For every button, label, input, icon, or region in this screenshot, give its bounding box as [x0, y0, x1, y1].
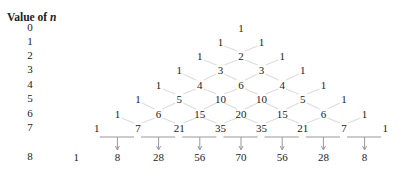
cell-r4-k1: 4 — [197, 79, 203, 91]
cell-r8-k2: 28 — [153, 151, 164, 163]
cell-r4-k4: 1 — [321, 79, 327, 91]
cell-r8-k5: 56 — [277, 151, 288, 163]
cell-r8-k6: 28 — [318, 151, 329, 163]
cell-r7-k6: 7 — [341, 122, 347, 134]
cell-r7-k4: 35 — [256, 122, 267, 134]
cell-r8-k1: 8 — [115, 151, 121, 163]
cell-r6-k2: 15 — [194, 108, 205, 120]
cell-r7-k0: 1 — [94, 122, 100, 134]
cell-r6-k6: 1 — [362, 108, 368, 120]
cell-r3-k3: 1 — [300, 64, 306, 76]
cell-r8-k0: 1 — [73, 151, 79, 163]
cell-r3-k2: 3 — [259, 64, 265, 76]
cell-r0-k0: 1 — [238, 22, 244, 34]
cell-r7-k2: 21 — [174, 122, 185, 134]
cell-r4-k0: 1 — [156, 79, 162, 91]
cell-r4-k2: 6 — [238, 79, 244, 91]
cell-r6-k1: 6 — [156, 108, 162, 120]
cell-r3-k0: 1 — [176, 64, 182, 76]
cell-r2-k1: 2 — [238, 50, 244, 62]
cell-r3-k1: 3 — [218, 64, 224, 76]
cell-r1-k0: 1 — [218, 36, 224, 48]
cell-r2-k2: 1 — [279, 50, 285, 62]
cell-r7-k1: 7 — [135, 122, 141, 134]
cell-r2-k0: 1 — [197, 50, 203, 62]
cell-r5-k2: 10 — [215, 93, 226, 105]
cell-r6-k5: 6 — [321, 108, 327, 120]
cell-r8-k7: 8 — [362, 151, 368, 163]
cell-r7-k7: 1 — [382, 122, 388, 134]
cell-r5-k0: 1 — [135, 93, 141, 105]
cell-r6-k3: 20 — [236, 108, 247, 120]
cell-r5-k3: 10 — [256, 93, 267, 105]
cell-r7-k5: 21 — [297, 122, 308, 134]
cell-r4-k3: 4 — [279, 79, 285, 91]
cell-r5-k4: 5 — [300, 93, 306, 105]
cell-r1-k1: 1 — [259, 36, 265, 48]
cell-r5-k1: 5 — [176, 93, 182, 105]
cell-r6-k0: 1 — [115, 108, 121, 120]
cell-r8-k4: 70 — [236, 151, 247, 163]
cell-r8-k3: 56 — [194, 151, 205, 163]
cell-r7-k3: 35 — [215, 122, 226, 134]
cell-r5-k5: 1 — [341, 93, 347, 105]
cell-r6-k4: 15 — [277, 108, 288, 120]
